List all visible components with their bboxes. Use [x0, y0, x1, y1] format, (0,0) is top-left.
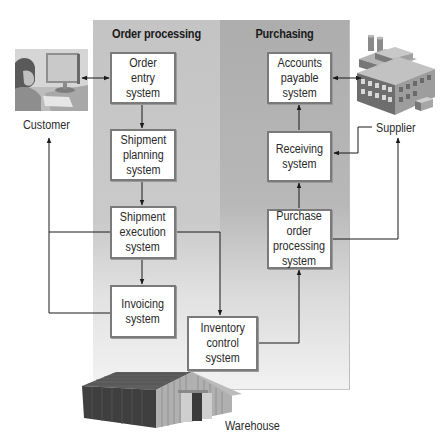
- invoicing-system-box: Invoicing system: [110, 285, 176, 338]
- supplier-icon: [355, 35, 437, 117]
- warehouse-icon: [82, 368, 244, 430]
- customer-label: Customer: [23, 118, 70, 132]
- customer-icon: [15, 49, 88, 111]
- order-entry-system-label: Order entry system: [126, 56, 160, 101]
- inventory-control-system-label: Inventory control system: [200, 321, 244, 366]
- purchase-order-processing-system-label: Purchase order processing system: [273, 209, 325, 269]
- supplier-label: Supplier: [376, 121, 416, 135]
- receiving-system-label: Receiving system: [276, 142, 323, 172]
- inventory-control-system-box: Inventory control system: [187, 316, 258, 371]
- lane-title-purchasing: Purchasing: [228, 27, 342, 41]
- receiving-system-box: Receiving system: [267, 131, 332, 182]
- purchase-order-processing-system-box: Purchase order processing system: [267, 209, 332, 269]
- shipment-execution-system-label: Shipment execution system: [120, 210, 166, 255]
- order-entry-system-box: Order entry system: [110, 52, 176, 104]
- order-fulfillment-diagram: Order processing Purchasing Customer: [0, 0, 442, 446]
- lane-title-order-processing: Order processing: [101, 27, 213, 41]
- shipment-planning-system-box: Shipment planning system: [110, 129, 176, 181]
- warehouse-label: Warehouse: [225, 419, 280, 433]
- shipment-planning-system-label: Shipment planning system: [120, 133, 166, 178]
- shipment-execution-system-box: Shipment execution system: [110, 206, 176, 259]
- accounts-payable-system-label: Accounts payable system: [277, 56, 321, 101]
- accounts-payable-system-box: Accounts payable system: [267, 52, 332, 104]
- invoicing-system-label: Invoicing system: [122, 297, 165, 327]
